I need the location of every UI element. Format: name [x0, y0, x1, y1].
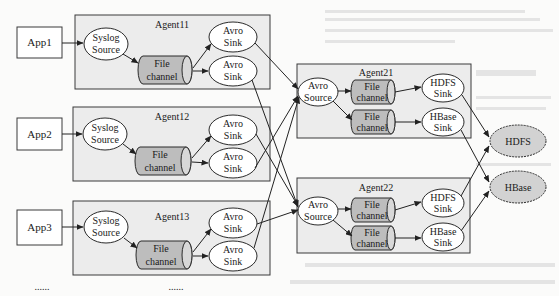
file-channel-cylinder: File channel [138, 56, 192, 84]
svg-text:App1: App1 [27, 36, 51, 48]
svg-text:channel: channel [144, 162, 175, 173]
svg-text:Avro: Avro [223, 59, 243, 70]
hdfs-sink: HDFS Sink [422, 74, 464, 102]
svg-text:channel: channel [146, 71, 177, 82]
agent-11: Agent11 Syslog Source File channel Avro … [75, 15, 270, 89]
svg-text:channel: channel [356, 238, 387, 249]
svg-text:Syslog: Syslog [91, 122, 118, 133]
svg-text:File: File [364, 81, 380, 92]
svg-text:HDFS: HDFS [430, 77, 456, 88]
svg-text:File: File [152, 149, 168, 160]
avro-sink-1: Avro Sink [209, 22, 257, 52]
file-channel-cylinder-2: File channel [351, 110, 395, 134]
svg-text:channel: channel [356, 92, 387, 103]
svg-text:File: File [153, 243, 169, 254]
avro-source: Avro Source [298, 197, 338, 225]
syslog-source: Syslog Source [84, 28, 128, 60]
svg-text:Source: Source [92, 44, 120, 55]
file-channel-cylinder-1: File channel [351, 80, 395, 104]
svg-text:App3: App3 [27, 221, 52, 233]
svg-text:Syslog: Syslog [92, 215, 119, 226]
svg-text:Avro: Avro [308, 80, 328, 91]
svg-text:HBase: HBase [505, 182, 532, 193]
svg-text:Source: Source [91, 134, 119, 145]
svg-text:File: File [364, 199, 380, 210]
svg-text:Avro: Avro [223, 118, 243, 129]
svg-text:channel: channel [356, 210, 387, 221]
svg-text:Agent11: Agent11 [155, 19, 189, 30]
file-channel-cylinder: File channel [136, 241, 192, 269]
svg-text:File: File [364, 111, 380, 122]
svg-text:HDFS: HDFS [505, 136, 531, 147]
svg-text:Sink: Sink [434, 237, 452, 248]
svg-text:App2: App2 [27, 128, 51, 140]
svg-text:Sink: Sink [224, 130, 242, 141]
file-channel-cylinder-2: File channel [351, 226, 395, 250]
svg-text:channel: channel [145, 256, 176, 267]
svg-text:channel: channel [356, 122, 387, 133]
avro-sink-1: Avro Sink [209, 208, 257, 238]
file-channel-cylinder: File channel [135, 147, 191, 175]
avro-sink-1: Avro Sink [209, 115, 257, 145]
svg-text:HBase: HBase [430, 111, 457, 122]
file-channel-cylinder-1: File channel [351, 198, 395, 222]
svg-text:Sink: Sink [224, 163, 242, 174]
svg-text:HDFS: HDFS [430, 192, 456, 203]
hbase-sink: HBase Sink [422, 223, 464, 251]
continuation-dots-apps: ...... [35, 281, 50, 292]
svg-text:Sink: Sink [434, 122, 452, 133]
hdfs-store-cloud: HDFS [490, 125, 546, 157]
svg-text:Agent13: Agent13 [155, 211, 189, 222]
svg-text:Sink: Sink [224, 71, 242, 82]
svg-text:Syslog: Syslog [92, 32, 119, 43]
hdfs-sink: HDFS Sink [422, 189, 464, 217]
svg-text:Sink: Sink [224, 223, 242, 234]
svg-text:Avro: Avro [223, 25, 243, 36]
continuation-dots-agents: ...... [169, 281, 184, 292]
avro-sink-2: Avro Sink [209, 241, 257, 271]
app-2: App2 [17, 118, 62, 150]
avro-source: Avro Source [298, 78, 338, 106]
hbase-sink: HBase Sink [422, 108, 464, 136]
svg-text:Agent21: Agent21 [359, 67, 393, 78]
svg-text:Avro: Avro [308, 199, 328, 210]
svg-text:Sink: Sink [434, 88, 452, 99]
hbase-store-cloud: HBase [490, 171, 546, 203]
svg-text:File: File [154, 58, 170, 69]
svg-text:Sink: Sink [224, 37, 242, 48]
syslog-source: Syslog Source [83, 118, 127, 150]
svg-text:Source: Source [92, 227, 120, 238]
app-1: App1 [17, 27, 62, 58]
agent-12: Agent12 Syslog Source File channel Avro … [73, 107, 270, 181]
svg-text:Avro: Avro [223, 211, 243, 222]
svg-text:Sink: Sink [224, 256, 242, 267]
svg-text:Agent22: Agent22 [359, 182, 393, 193]
agent-21: Agent21 Avro Source File channel File ch… [297, 64, 471, 138]
svg-text:HBase: HBase [430, 226, 457, 237]
svg-text:Source: Source [304, 92, 332, 103]
svg-text:Agent12: Agent12 [155, 111, 189, 122]
avro-sink-2: Avro Sink [209, 56, 257, 86]
svg-text:Sink: Sink [434, 203, 452, 214]
syslog-source: Syslog Source [84, 211, 128, 243]
agent-22: Agent22 Avro Source File channel File ch… [297, 178, 470, 253]
agent-13: Agent13 Syslog Source File channel Avro … [73, 201, 270, 275]
svg-text:Avro: Avro [223, 151, 243, 162]
svg-text:Source: Source [304, 211, 332, 222]
flume-multi-tier-diagram: App1 App2 App3 Agent11 Syslog Source Fil… [0, 0, 559, 296]
app-3: App3 [17, 210, 62, 245]
avro-sink-2: Avro Sink [209, 148, 257, 178]
svg-text:File: File [364, 227, 380, 238]
svg-text:Avro: Avro [223, 244, 243, 255]
